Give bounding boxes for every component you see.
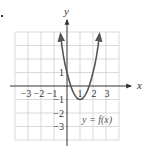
x-tick-label: 3 xyxy=(105,88,110,99)
x-tick-label: −3 xyxy=(21,88,32,99)
y-tick-label: 1 xyxy=(59,67,64,78)
x-axis-label: x xyxy=(136,79,142,91)
function-label: y = f(x) xyxy=(81,114,113,126)
x-tick-label: −2 xyxy=(34,88,45,99)
y-axis-label: y xyxy=(63,5,69,17)
y-tick-label: −2 xyxy=(53,108,64,119)
x-tick-label: 1 xyxy=(78,88,83,99)
function-curve-right-branch xyxy=(93,34,100,73)
bullet-dot xyxy=(1,15,3,17)
function-graph: x y −3 −2 −1 1 2 3 1 −1 −2 −3 y = f(x) xyxy=(0,0,152,159)
y-tick-label: −1 xyxy=(53,94,64,105)
y-tick-label: −3 xyxy=(53,121,64,132)
x-tick-label: 2 xyxy=(92,88,97,99)
